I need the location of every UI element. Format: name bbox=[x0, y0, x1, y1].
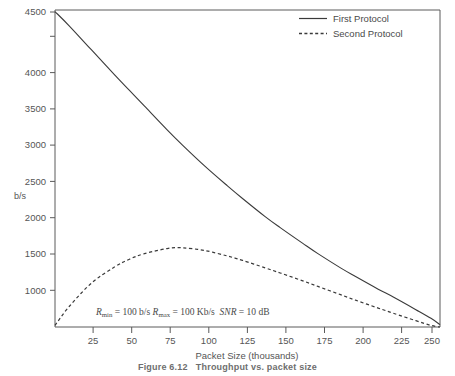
y-tick-label-3000: 3000 bbox=[25, 139, 46, 150]
figure-caption-text: Throughput vs. packet size bbox=[196, 362, 317, 372]
legend-label-first-protocol: First Protocol bbox=[333, 13, 389, 24]
figure-caption: Figure 6.12 Throughput vs. packet size bbox=[0, 362, 455, 372]
rmax-value: = 100 Kb/s bbox=[172, 307, 215, 317]
x-tick-label-150: 150 bbox=[278, 335, 294, 346]
snr-value: = 10 dB bbox=[239, 307, 270, 317]
x-tick-label-100: 100 bbox=[201, 335, 217, 346]
x-tick-label-225: 225 bbox=[394, 335, 410, 346]
y-tick-label-4500: 4500 bbox=[25, 6, 46, 17]
legend-label-second-protocol: Second Protocol bbox=[333, 28, 403, 39]
y-tick-label-1500: 1500 bbox=[25, 248, 46, 259]
y-axis-ticks bbox=[50, 12, 55, 290]
y-tick-label-2000: 2000 bbox=[25, 212, 46, 223]
x-tick-label-75: 75 bbox=[165, 335, 176, 346]
x-axis-ticks bbox=[93, 327, 432, 333]
x-tick-label-50: 50 bbox=[126, 335, 137, 346]
series-line-first-protocol bbox=[55, 12, 440, 325]
y-tick-label-1000: 1000 bbox=[25, 285, 46, 296]
rmin-value: = 100 b/s bbox=[115, 307, 151, 317]
figure-container: 1000 1500 2000 2500 3000 3500 4000 4500 … bbox=[0, 0, 455, 376]
throughput-chart: 1000 1500 2000 2500 3000 3500 4000 4500 … bbox=[0, 0, 455, 376]
rmax-subscript: max bbox=[158, 311, 170, 318]
x-tick-label-200: 200 bbox=[355, 335, 371, 346]
chart-legend: First Protocol Second Protocol bbox=[299, 13, 403, 39]
snr-symbol: SNR bbox=[220, 307, 237, 317]
y-axis-label: b/s bbox=[14, 191, 27, 201]
x-tick-label-25: 25 bbox=[88, 335, 99, 346]
parameters-annotation: Rmin = 100 b/s Rmax = 100 Kb/s SNR = 10 … bbox=[95, 307, 270, 318]
y-tick-label-3500: 3500 bbox=[25, 103, 46, 114]
plot-frame bbox=[55, 10, 440, 327]
y-tick-label-2500: 2500 bbox=[25, 176, 46, 187]
x-tick-label-250: 250 bbox=[424, 335, 440, 346]
rmin-subscript: min bbox=[102, 311, 113, 318]
x-axis-label: Packet Size (thousands) bbox=[196, 350, 299, 361]
x-tick-label-175: 175 bbox=[317, 335, 333, 346]
y-tick-label-4000: 4000 bbox=[25, 67, 46, 78]
figure-caption-number: Figure 6.12 bbox=[138, 362, 188, 372]
x-tick-label-125: 125 bbox=[239, 335, 255, 346]
